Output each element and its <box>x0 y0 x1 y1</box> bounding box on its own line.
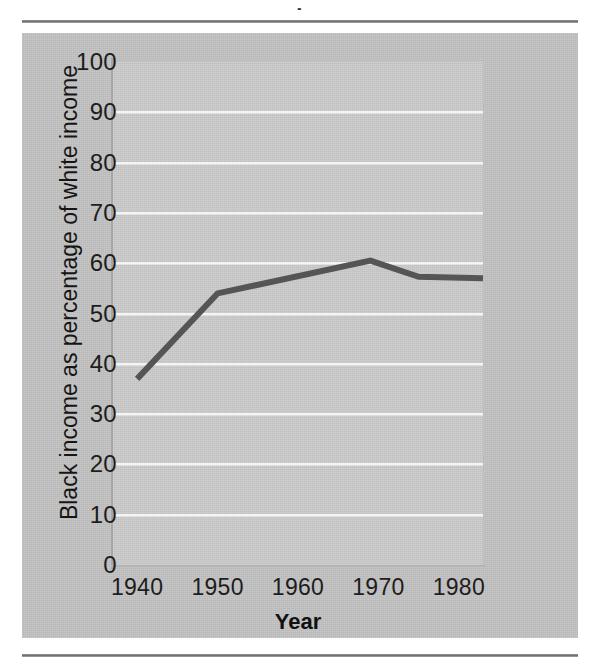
figure-panel: Year Black income as percentage of white… <box>22 33 578 638</box>
data-series-layer <box>113 62 483 565</box>
y-axis-tick-label: 20 <box>47 450 117 478</box>
x-axis-tick-label: 1940 <box>111 574 163 601</box>
y-axis-tick-label: 40 <box>47 350 117 378</box>
y-axis-tick-label: 50 <box>47 300 117 328</box>
x-axis-tick-label: 1980 <box>433 574 485 601</box>
y-axis-tick-label: 60 <box>47 249 117 277</box>
y-axis-tick-label: 90 <box>47 98 117 126</box>
line-chart: Year Black income as percentage of white… <box>22 33 578 638</box>
y-axis-tick-label: 70 <box>47 199 117 227</box>
page-rule-bottom <box>22 654 578 657</box>
page-rule-top <box>22 20 578 23</box>
x-axis-tick-label: 1950 <box>191 574 243 601</box>
y-axis-tick-label: 30 <box>47 400 117 428</box>
y-axis-tick-label: 80 <box>47 149 117 177</box>
data-line <box>137 261 483 379</box>
y-axis-tick-label: 10 <box>47 501 117 529</box>
x-axis-tick-label: 1960 <box>272 574 324 601</box>
x-axis-tick-label: 1970 <box>352 574 404 601</box>
y-axis-tick-label: 100 <box>47 48 117 76</box>
y-axis-tick-label: 0 <box>47 551 117 579</box>
x-axis-line <box>111 565 485 567</box>
x-axis-label: Year <box>113 609 483 635</box>
cut-off-title-sliver: ▪ <box>0 0 599 10</box>
